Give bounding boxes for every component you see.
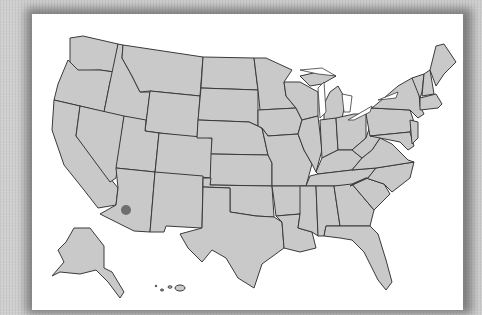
location-marker-dot [121, 205, 131, 215]
state-pennsylvania [366, 108, 414, 136]
state-massachusetts-connecticut-rhode-island [420, 94, 442, 110]
state-new-jersey [410, 120, 418, 144]
state-colorado [155, 133, 212, 178]
lake-michigan [318, 82, 326, 118]
state-north-dakota [201, 57, 258, 90]
lake-huron [342, 94, 352, 112]
state-maine [430, 44, 456, 86]
state-kansas [210, 154, 272, 186]
state-washington [70, 36, 118, 72]
us-map [0, 0, 482, 315]
state-wyoming [145, 91, 200, 138]
state-new-mexico [150, 172, 203, 232]
state-florida [324, 226, 392, 290]
state-alaska [52, 228, 124, 298]
state-mississippi [298, 186, 318, 236]
state-hawaii [155, 285, 185, 291]
contiguous-states [52, 36, 456, 290]
